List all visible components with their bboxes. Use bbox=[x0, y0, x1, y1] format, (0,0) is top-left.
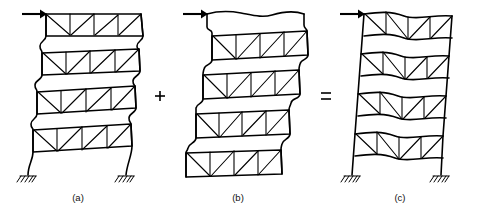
plus-operator bbox=[155, 91, 165, 101]
column-right bbox=[126, 14, 143, 175]
panel-caption-c: (c) bbox=[394, 192, 405, 203]
story-band bbox=[361, 52, 449, 80]
panel-b: (b) bbox=[183, 10, 308, 203]
support-base-left bbox=[341, 176, 360, 182]
panel-a: (a) bbox=[17, 10, 143, 203]
story-band bbox=[46, 14, 143, 36]
lateral-load-arrow bbox=[183, 10, 208, 19]
story-band bbox=[355, 132, 443, 160]
lateral-load-arrow bbox=[22, 10, 47, 19]
story-band bbox=[33, 124, 132, 152]
support-base-right bbox=[430, 176, 449, 182]
story-band bbox=[42, 49, 140, 75]
roof-cap bbox=[207, 12, 304, 17]
panel-caption-a: (a) bbox=[72, 192, 84, 203]
story-band bbox=[364, 12, 452, 40]
figure-root: (a) bbox=[0, 0, 482, 217]
story-band bbox=[212, 31, 308, 60]
story-band bbox=[196, 110, 290, 138]
structural-frame-figure: (a) bbox=[0, 0, 482, 217]
panel-c: (c) bbox=[340, 10, 452, 203]
support-base-right bbox=[115, 176, 134, 182]
story-band bbox=[358, 92, 446, 120]
truss-bracing bbox=[187, 150, 281, 176]
support-base-left bbox=[17, 176, 36, 182]
lateral-load-arrow bbox=[340, 10, 365, 19]
story-band bbox=[37, 86, 136, 114]
equals-operator bbox=[321, 93, 331, 99]
truss-bracing bbox=[47, 14, 141, 35]
story-band bbox=[186, 150, 282, 177]
story-band bbox=[203, 70, 300, 99]
panel-caption-b: (b) bbox=[232, 192, 244, 203]
